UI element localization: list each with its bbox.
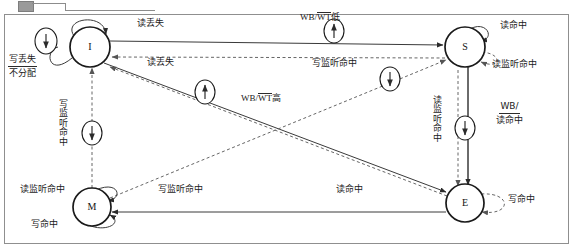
label-read-hit-s: 读命中 <box>500 20 527 30</box>
label-write-snoop-hit-2: 读命中 <box>336 184 363 194</box>
label-no-allocate: 不分配 <box>9 67 36 79</box>
label-write-hit-m: 写命中 <box>31 219 58 229</box>
node-label-s: S <box>455 41 475 52</box>
label-read-hit-e: 写命中 <box>508 194 535 204</box>
label-write-hit-right: WB/ <box>499 101 519 114</box>
label-write-snoop-hit-vertical: 写监听命中 <box>58 100 69 147</box>
label-write-hit-wb-wt-high: WB/ 读命中 <box>496 101 523 127</box>
label-read-snoop-hit-vertical: 读监听命中 <box>432 96 443 143</box>
label-wb-wt-high-right: 读命中 <box>496 114 523 126</box>
label-write-miss: 写丢失 <box>8 54 37 67</box>
label-write-miss-no-allocate: 写丢失 不分配 <box>8 54 37 80</box>
label-write-snoop-hit-1: 写监听命中 <box>312 58 357 68</box>
label-read-miss-2: 读丢失 <box>147 57 174 67</box>
label-wb-wt-low: WB/WT低 <box>300 12 340 22</box>
label-wb-wt-high-mid: WB/WT高 <box>241 93 281 103</box>
node-label-i: I <box>80 41 100 52</box>
edge-i-to-s <box>110 41 443 45</box>
label-read-hit-m: 读监听命中 <box>20 184 65 194</box>
label-read-snoop-hit-s: 读监听命中 <box>492 59 537 69</box>
label-read-miss-top: 读丢失 <box>137 18 164 28</box>
node-label-e: E <box>455 197 475 208</box>
label-read-snoop-hit-mid: 写监听命中 <box>158 184 203 194</box>
node-label-m: M <box>82 201 102 212</box>
state-diagram-canvas: I S M E 写丢失 不分配 WB/ 读命中 读丢失 WB/WT低 读命中 读… <box>0 0 571 247</box>
